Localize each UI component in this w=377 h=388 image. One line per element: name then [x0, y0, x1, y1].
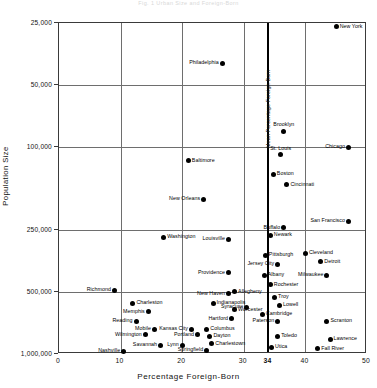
data-point[interactable]: [334, 24, 339, 29]
data-point-label: Baltimore: [192, 158, 215, 163]
y-axis-tick-mark: [54, 353, 58, 354]
data-point-label: New Haven: [197, 291, 225, 296]
data-point-label: Memphis: [123, 309, 145, 314]
data-point[interactable]: [275, 319, 280, 324]
data-point[interactable]: [324, 319, 329, 324]
data-point[interactable]: [130, 301, 135, 306]
data-point[interactable]: [268, 233, 273, 238]
gridline-horizontal: [59, 85, 365, 86]
data-point-label: Cleveland: [309, 250, 333, 255]
data-point[interactable]: [277, 303, 282, 308]
data-point-label: Cambridge: [266, 311, 292, 316]
data-point[interactable]: [281, 129, 286, 134]
data-point[interactable]: [220, 61, 225, 66]
data-point-label: Savannah: [133, 343, 157, 348]
y-axis-tick-label: 25,000: [0, 19, 52, 26]
x-axis-tick-label: 40: [300, 357, 308, 364]
data-point[interactable]: [211, 301, 216, 306]
data-point-label: Springfield: [178, 348, 204, 353]
data-point[interactable]: [272, 295, 277, 300]
y-axis-tick-label: 250,000: [0, 225, 52, 232]
data-point[interactable]: [303, 251, 308, 256]
data-point-label: Wilmington: [115, 332, 142, 337]
data-point-label: Dayton: [213, 334, 230, 339]
data-point[interactable]: [275, 262, 280, 267]
data-point-label: Columbus: [210, 326, 234, 331]
data-point[interactable]: [315, 346, 320, 351]
data-point[interactable]: [226, 291, 231, 296]
data-point[interactable]: [134, 319, 139, 324]
data-point[interactable]: [278, 152, 283, 157]
data-point-label: Philadelphia: [189, 60, 218, 65]
data-point[interactable]: [204, 327, 209, 332]
data-point[interactable]: [318, 259, 323, 264]
data-point-label: Brooklyn: [273, 122, 294, 127]
data-point[interactable]: [158, 343, 163, 348]
data-point-label: Louisville: [203, 236, 225, 241]
data-point-label: Portland: [174, 332, 194, 337]
data-point[interactable]: [328, 337, 333, 342]
data-point-label: Providence: [198, 270, 225, 275]
x-axis-tick-label: 30: [239, 357, 247, 364]
y-axis-tick-label: 50,000: [0, 81, 52, 88]
data-point[interactable]: [269, 345, 274, 350]
data-point-label: Charleston: [136, 301, 162, 306]
gridline-vertical: [182, 23, 183, 352]
data-point-label: Fall River: [321, 346, 344, 351]
data-point[interactable]: [195, 332, 200, 337]
data-point[interactable]: [232, 289, 237, 294]
data-point[interactable]: [146, 309, 151, 314]
data-point[interactable]: [207, 334, 212, 339]
data-point[interactable]: [226, 270, 231, 275]
data-point-label: Reading: [112, 319, 132, 324]
data-point-label: Milwaukee: [298, 273, 323, 278]
data-point-label: Paterson: [253, 319, 275, 324]
data-point[interactable]: [201, 197, 206, 202]
data-point[interactable]: [262, 273, 267, 278]
mean-line-label: Mean Percentage Foreign-Born: [265, 70, 271, 148]
data-point[interactable]: [204, 348, 209, 353]
data-point[interactable]: [346, 219, 351, 224]
x-axis-tick-label: 20: [177, 357, 185, 364]
data-point-label: Jersey City: [247, 262, 274, 267]
data-point-label: Albany: [268, 273, 285, 278]
data-point[interactable]: [152, 327, 157, 332]
data-point-label: Charlestown: [215, 341, 245, 346]
gridline-vertical: [305, 23, 306, 352]
data-point[interactable]: [263, 253, 268, 258]
data-point[interactable]: [229, 316, 234, 321]
data-point[interactable]: [324, 273, 329, 278]
data-point[interactable]: [284, 182, 289, 187]
chart-title: Fig. 1 Urban Size and Foreign-Born: [0, 0, 377, 7]
gridline-horizontal: [59, 230, 365, 231]
data-point[interactable]: [226, 237, 231, 242]
data-point[interactable]: [346, 145, 351, 150]
data-point-label: Cincinnati: [290, 182, 314, 187]
x-axis-label: Percentage Foreign-Born: [0, 372, 377, 381]
data-point[interactable]: [268, 282, 273, 287]
data-point[interactable]: [232, 307, 237, 312]
data-point[interactable]: [112, 288, 117, 293]
data-point-label: Detroit: [324, 259, 340, 264]
y-axis-label: Population Size: [1, 146, 10, 206]
data-point[interactable]: [271, 172, 276, 177]
data-point[interactable]: [161, 235, 166, 240]
data-point-label: Boston: [277, 172, 294, 177]
data-point-label: St. Louis: [270, 146, 291, 151]
data-point-label: Nashville: [98, 349, 120, 354]
x-axis-tick-label: 50: [362, 357, 370, 364]
data-point-label: Newark: [274, 233, 292, 238]
plot-area: New YorkPhiladelphiaBrooklynChicagoSt. L…: [58, 22, 366, 353]
y-axis-tick-label: 500,000: [0, 287, 52, 294]
data-point[interactable]: [209, 341, 214, 346]
data-point[interactable]: [186, 158, 191, 163]
data-point[interactable]: [260, 312, 265, 317]
y-axis-tick-label: 100,000: [0, 143, 52, 150]
data-point-label: Richmond: [87, 287, 111, 292]
x-axis-tick-label: 10: [116, 357, 124, 364]
data-point[interactable]: [143, 332, 148, 337]
scatter-plot-figure: Fig. 1 Urban Size and Foreign-Born Popul…: [0, 0, 377, 388]
data-point[interactable]: [275, 334, 280, 339]
data-point[interactable]: [121, 349, 126, 354]
gridline-vertical: [121, 23, 122, 352]
